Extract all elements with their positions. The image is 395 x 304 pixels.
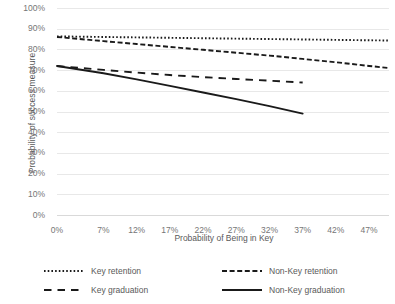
- y-axis-tick-label: 80%: [5, 45, 45, 54]
- legend-item[interactable]: Non-Key retention: [222, 264, 338, 278]
- series-line: [57, 66, 303, 83]
- plot-area: 0%10%20%30%40%50%60%70%80%90%100% 0%7%12…: [57, 8, 389, 215]
- series-line: [57, 37, 389, 68]
- series-lines: [57, 8, 389, 215]
- legend-label: Non-Key graduation: [269, 285, 345, 295]
- legend-swatch-dotted-icon: [44, 266, 84, 276]
- y-axis-tick-label: 60%: [5, 86, 45, 95]
- y-axis-tick-label: 50%: [5, 107, 45, 116]
- line-chart: Probability of success measure Probabili…: [0, 0, 395, 304]
- legend-label: Key retention: [91, 266, 141, 276]
- legend-label: Non-Key retention: [269, 266, 338, 276]
- legend-item[interactable]: Key graduation: [44, 283, 148, 297]
- y-axis-tick-label: 30%: [5, 148, 45, 157]
- legend-swatch-solid-icon: [222, 285, 262, 295]
- legend-item[interactable]: Non-Key graduation: [222, 283, 345, 297]
- series-line: [57, 36, 389, 40]
- y-axis-tick-label: 70%: [5, 66, 45, 75]
- chart-legend: Key retentionNon-Key retentionKey gradua…: [0, 262, 395, 304]
- legend-item[interactable]: Key retention: [44, 264, 141, 278]
- y-axis-tick-label: 10%: [5, 190, 45, 199]
- gridline: [57, 215, 389, 216]
- x-axis-tick-label: 0%: [37, 226, 77, 235]
- y-axis-tick-label: 90%: [5, 24, 45, 33]
- y-axis-tick-label: 20%: [5, 169, 45, 178]
- y-axis-tick-label: 40%: [5, 128, 45, 137]
- series-line: [57, 66, 303, 114]
- legend-label: Key graduation: [91, 285, 148, 295]
- legend-swatch-dashed-icon: [222, 266, 262, 276]
- legend-swatch-dashed-long-icon: [44, 285, 84, 295]
- x-axis-tick-label: 47%: [349, 226, 389, 235]
- y-axis-tick-label: 100%: [5, 4, 45, 13]
- y-axis-tick-label: 0%: [5, 211, 45, 220]
